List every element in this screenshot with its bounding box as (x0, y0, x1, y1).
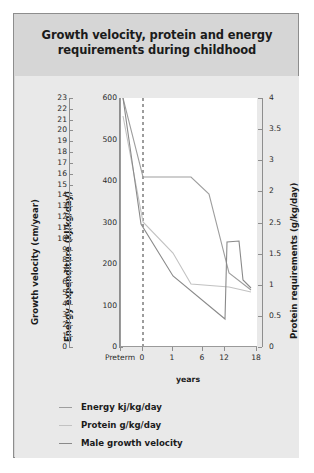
energy-tick-label: 0 (112, 343, 117, 351)
legend-item-label: Protein g/kg/day (81, 420, 161, 430)
plot-area (120, 98, 257, 347)
growth-velocity-tick-mark (69, 282, 73, 283)
protein-tick-label: 2 (269, 187, 274, 195)
protein-tick-mark (258, 254, 262, 255)
growth-velocity-tick-mark (69, 109, 73, 110)
growth-velocity-tick-mark (69, 304, 73, 305)
x-axis-tick-mark (224, 347, 225, 351)
growth-velocity-tick-mark (69, 163, 73, 164)
legend-color-swatch (59, 425, 72, 426)
axis-title-growth-velocity: Growth velocity (cm/year) (30, 199, 40, 325)
growth-velocity-tick-mark (69, 185, 73, 186)
growth-velocity-tick-label: 11 (57, 224, 67, 232)
growth-velocity-tick-label: 6 (62, 278, 67, 286)
protein-tick-label: 0.5 (269, 312, 281, 320)
growth-velocity-tick-mark (69, 239, 73, 240)
growth-velocity-tick-label: 15 (57, 181, 67, 189)
protein-tick-mark (258, 129, 262, 130)
x-axis-tick-mark (142, 347, 143, 351)
energy-tick-label: 500 (103, 136, 118, 144)
growth-velocity-tick-mark (69, 152, 73, 153)
chart-card: Growth velocity, protein and energy requ… (13, 13, 299, 458)
growth-velocity-tick-mark (69, 217, 73, 218)
growth-velocity-tick-mark (69, 174, 73, 175)
legend-item: Energy kj/kg/day (59, 398, 279, 416)
growth-velocity-tick-mark (69, 120, 73, 121)
growth-velocity-tick-mark (69, 260, 73, 261)
protein-tick-mark (258, 223, 262, 224)
x-axis-tick-mark (172, 347, 173, 351)
x-axis-tick-label: 18 (234, 353, 278, 362)
energy-tick-label: 100 (103, 302, 118, 310)
energy-tick-label: 600 (103, 94, 118, 102)
legend-item-label: Energy kj/kg/day (81, 402, 162, 412)
growth-velocity-tick-label: 17 (57, 159, 67, 167)
energy-tick-label: 200 (103, 260, 118, 268)
protein-tick-label: 4 (269, 94, 274, 102)
growth-velocity-tick-label: 23 (57, 94, 67, 102)
energy-tick-label: 400 (103, 177, 118, 185)
growth-velocity-tick-mark (69, 293, 73, 294)
legend-item: Protein g/kg/day (59, 416, 279, 434)
plot-card: Growth velocity (cm/year) Energy expendi… (15, 76, 299, 458)
axis-title-protein-requirements: Protein requirements (g/kg/day) (289, 183, 299, 339)
protein-tick-label: 3 (269, 156, 274, 164)
protein-tick-label: 3.5 (269, 125, 281, 133)
growth-velocity-tick-label: 0 (62, 343, 67, 351)
protein-tick-mark (258, 316, 262, 317)
legend-item: Male growth velocity (59, 434, 279, 452)
growth-velocity-tick-mark (69, 271, 73, 272)
growth-velocity-tick-label: 14 (57, 191, 67, 199)
protein-tick-mark (258, 191, 262, 192)
growth-velocity-tick-mark (69, 141, 73, 142)
x-axis-tick-mark (256, 347, 257, 351)
growth-velocity-tick-label: 4 (62, 300, 67, 308)
growth-velocity-tick-label: 3 (62, 311, 67, 319)
growth-velocity-tick-label: 2 (62, 321, 67, 329)
growth-velocity-tick-label: 19 (57, 137, 67, 145)
energy-tick-label: 300 (103, 219, 118, 227)
growth-velocity-tick-mark (69, 347, 73, 348)
growth-velocity-tick-label: 20 (57, 126, 67, 134)
growth-velocity-tick-label: 5 (62, 289, 67, 297)
growth-velocity-tick-mark (69, 336, 73, 337)
growth-velocity-tick-label: 16 (57, 170, 67, 178)
growth-velocity-axis-line (69, 98, 70, 347)
growth-velocity-tick-label: 8 (62, 256, 67, 264)
protein-tick-mark (258, 285, 262, 286)
growth-velocity-tick-mark (69, 130, 73, 131)
protein-tick-mark (258, 98, 262, 99)
protein-tick-mark (258, 160, 262, 161)
legend-item-label: Male growth velocity (81, 438, 183, 448)
growth-velocity-tick-label: 10 (57, 235, 67, 243)
growth-velocity-tick-label: 12 (57, 213, 67, 221)
growth-velocity-tick-mark (69, 250, 73, 251)
data-lines-svg (121, 98, 257, 346)
protein-axis-line (262, 98, 263, 347)
legend-color-swatch (59, 407, 72, 408)
growth-velocity-tick-mark (69, 195, 73, 196)
legend-color-swatch (59, 443, 72, 444)
protein-tick-mark (258, 347, 262, 348)
axis-title-years: years (120, 375, 256, 384)
growth-velocity-tick-label: 13 (57, 202, 67, 210)
growth-velocity-tick-mark (69, 98, 73, 99)
page-title: Growth velocity, protein and energy requ… (14, 28, 300, 58)
growth-velocity-tick-label: 22 (57, 105, 67, 113)
series-line-energy (123, 98, 251, 290)
growth-velocity-tick-label: 21 (57, 116, 67, 124)
x-axis-tick-mark (202, 347, 203, 351)
growth-velocity-tick-label: 18 (57, 148, 67, 156)
series-line-growth-velocity (123, 98, 251, 319)
chart-legend: Energy kj/kg/dayProtein g/kg/dayMale gro… (59, 398, 279, 452)
protein-tick-label: 1.5 (269, 250, 281, 258)
protein-tick-label: 0 (269, 343, 274, 351)
growth-velocity-tick-label: 7 (62, 267, 67, 275)
protein-tick-label: 1 (269, 281, 274, 289)
growth-velocity-tick-mark (69, 325, 73, 326)
growth-velocity-tick-mark (69, 206, 73, 207)
series-line-protein (123, 116, 251, 292)
growth-velocity-tick-mark (69, 315, 73, 316)
growth-velocity-tick-mark (69, 228, 73, 229)
protein-tick-label: 2.5 (269, 219, 281, 227)
